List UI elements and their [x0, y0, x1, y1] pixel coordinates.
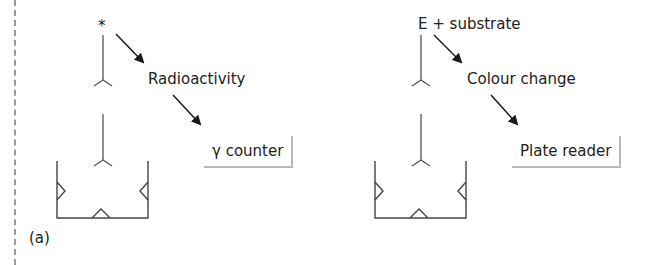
radioactivity-label: Radioactivity	[148, 70, 245, 88]
enzyme-antibody-right	[412, 35, 430, 86]
bound-antibody-right	[412, 114, 430, 166]
gamma-counter-box: γ counter	[204, 136, 293, 168]
arrow-to-radioactivity	[116, 34, 143, 62]
diagram-artwork	[0, 0, 663, 265]
panel-label: (a)	[29, 229, 50, 247]
radiolabel-asterisk: *	[98, 17, 106, 35]
arrow-to-colour-change	[434, 35, 461, 62]
bound-antibody-left	[94, 114, 112, 166]
well-right	[375, 161, 466, 218]
plate-reader-box: Plate reader	[512, 136, 621, 168]
well-left	[57, 161, 148, 218]
arrow-to-gamma-counter	[173, 95, 200, 124]
colour-change-label: Colour change	[467, 70, 576, 88]
enzyme-substrate-label: E + substrate	[418, 15, 521, 33]
arrow-to-plate-reader	[491, 95, 517, 124]
labelled-antibody-left	[94, 35, 112, 86]
